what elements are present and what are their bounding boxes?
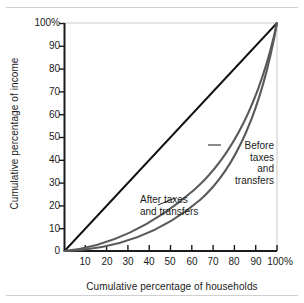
y-tick-label-0: 0 xyxy=(20,245,60,256)
y-tick-label-50: 50 xyxy=(20,131,60,142)
x-axis-title: Cumulative percentage of households xyxy=(52,281,292,292)
annotation-before-taxes-and-transfers: Before taxes and transfers xyxy=(216,140,274,186)
lorenz-curve-figure: 100% 90 80 70 60 50 40 30 20 10 0 10 20 … xyxy=(0,0,304,303)
x-axis-tick-labels: 10 20 30 40 50 60 70 80 90 100% xyxy=(0,256,304,272)
y-tick-label-60: 60 xyxy=(20,109,60,120)
y-tick-label-100: 100% xyxy=(20,17,60,28)
annotation-after-line-1: After taxes xyxy=(140,194,236,206)
y-tick-label-40: 40 xyxy=(20,154,60,165)
annotation-before-line-4: transfers xyxy=(216,175,274,187)
annotation-before-line-2: taxes xyxy=(216,152,274,164)
y-tick-label-70: 70 xyxy=(20,86,60,97)
y-tick-label-10: 10 xyxy=(20,223,60,234)
y-tick-label-30: 30 xyxy=(20,177,60,188)
annotation-after-line-2: and transfers xyxy=(140,206,236,218)
annotation-after-taxes-and-transfers: After taxes and transfers xyxy=(140,194,236,217)
annotation-before-line-3: and xyxy=(216,163,274,175)
y-tick-label-90: 90 xyxy=(20,40,60,51)
y-tick-label-80: 80 xyxy=(20,63,60,74)
x-tick-label-100: 100% xyxy=(263,256,297,267)
y-axis-title: Cumulative percentage of income xyxy=(9,34,20,234)
y-tick-label-20: 20 xyxy=(20,200,60,211)
annotation-before-line-1: Before xyxy=(216,140,274,152)
